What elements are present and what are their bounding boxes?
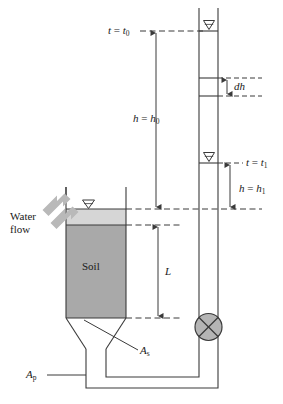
- label-ap: Ap: [26, 368, 36, 381]
- label-soil: Soil: [82, 260, 100, 273]
- label-as: As: [140, 344, 150, 357]
- standpipe-dh-band: [199, 78, 218, 96]
- water-level-triangle-icon: [204, 153, 215, 162]
- leader-line-as: [84, 320, 138, 350]
- standpipe-water-surface-t0: [199, 21, 218, 32]
- label-water-flow: Water flow: [10, 210, 36, 235]
- label-t1: t = t1: [246, 156, 268, 169]
- label-dh: dh: [234, 80, 245, 93]
- water-level-triangle-icon: [83, 200, 95, 209]
- label-t0: t = t0: [108, 24, 130, 37]
- label-h1: h = h1: [239, 182, 265, 195]
- label-L: L: [165, 265, 171, 278]
- standpipe: [199, 8, 218, 352]
- standpipe-water-surface-t1: [199, 153, 218, 164]
- water-level-triangle-icon: [204, 21, 215, 30]
- container-water-level-marker: [83, 200, 95, 209]
- falling-head-permeability-diagram: t = t0 dh h = h0 t = t1 h = h1 Water flo…: [0, 0, 283, 404]
- label-h0: h = h0: [133, 112, 159, 125]
- valve-icon: [195, 314, 222, 341]
